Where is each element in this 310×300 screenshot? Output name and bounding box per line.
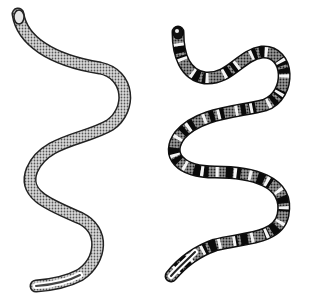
snakes-illustration bbox=[0, 0, 310, 300]
banded-snake-head bbox=[173, 27, 183, 39]
illustration-canvas bbox=[0, 0, 310, 300]
plain-snake-head bbox=[14, 10, 24, 24]
plain-snake bbox=[14, 10, 125, 286]
banded-snake bbox=[171, 27, 284, 276]
